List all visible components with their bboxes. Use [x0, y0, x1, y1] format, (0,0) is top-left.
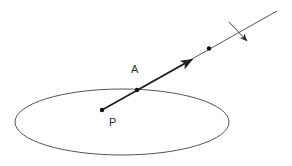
label-a: A [131, 64, 138, 75]
diagram-svg [0, 0, 292, 166]
point-p-dot [100, 108, 104, 112]
label-p: P [109, 117, 116, 128]
crossing-arrow [229, 22, 247, 41]
surface-point-dot [135, 88, 139, 92]
diagram-canvas: A P [0, 0, 292, 166]
outer-point-dot [207, 46, 211, 50]
bold-vector-arrow [102, 60, 192, 111]
